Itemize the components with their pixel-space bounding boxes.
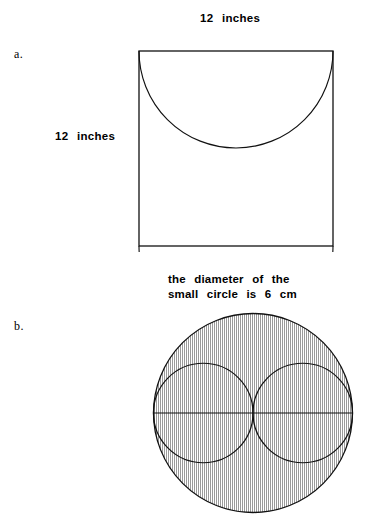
square-top-dimension-label: 12 inches: [200, 13, 260, 25]
problem-letter-a: a.: [14, 48, 23, 60]
caption-line-1: the diameter of the: [168, 272, 297, 287]
figure-circles: [150, 310, 356, 516]
figure-square-with-semicircles: [136, 48, 338, 252]
small-circle-caption: the diameter of the small circle is 6 cm: [168, 272, 297, 302]
lower-semicircle-arc: [139, 246, 333, 252]
caption-line-2: small circle is 6 cm: [168, 287, 297, 302]
problem-letter-b: b.: [14, 320, 24, 332]
square-left-dimension-label: 12 inches: [55, 131, 115, 143]
worksheet-page: a. 12 inches 12 inches b. the diameter o…: [0, 0, 369, 531]
circles-svg: [150, 310, 356, 516]
square-semicircle-svg: [136, 48, 338, 252]
